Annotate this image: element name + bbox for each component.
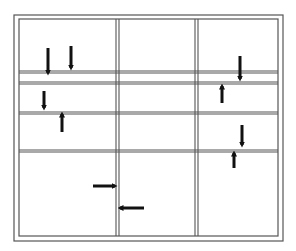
inner-frame <box>19 19 278 236</box>
window-grid-diagram <box>0 0 296 251</box>
arrows <box>44 46 242 208</box>
dividers <box>19 19 278 236</box>
